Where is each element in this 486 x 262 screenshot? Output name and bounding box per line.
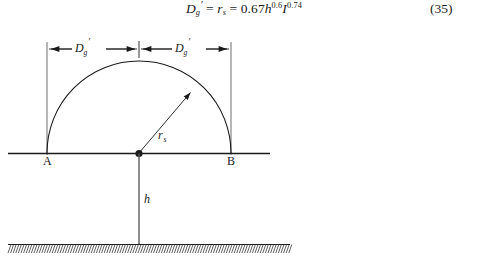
dimension-left-label: D: [74, 41, 84, 55]
dimension-right: D g ′: [141, 37, 229, 58]
equation-mid-subscript: s: [223, 8, 226, 17]
point-a-label: A: [43, 154, 52, 168]
equation-variable-h: h: [265, 1, 272, 16]
equation-equals-1: =: [206, 1, 214, 16]
radius-label: r: [158, 128, 163, 142]
equation-lhs-symbol: D: [186, 1, 196, 16]
dimension-right-label-subscript: g: [184, 48, 188, 57]
equation-expression: Dg′ = rs = 0.67h0.6I0.74: [186, 1, 302, 17]
ground-hatching: [8, 245, 292, 254]
equation-coefficient: 0.67: [241, 1, 265, 16]
height-label: h: [144, 192, 150, 206]
dimension-right-label: D: [174, 41, 184, 55]
dimension-extension-lines: [47, 42, 231, 155]
equation-equals-2: =: [230, 1, 238, 16]
equation-number: (35): [430, 1, 453, 17]
point-b-label: B: [227, 154, 235, 168]
radius-label-subscript: s: [164, 135, 167, 144]
dimension-left-label-subscript: g: [84, 48, 88, 57]
point-b: B: [227, 154, 235, 168]
figure-page: Dg′ = rs = 0.67h0.6I0.74 (35): [0, 0, 486, 262]
dimension-left: D g ′: [49, 37, 137, 58]
equation-lhs-prime: ′: [200, 0, 202, 10]
diagram-figure: D g ′ D g ′ r s: [0, 26, 486, 262]
equation-exponent-h: 0.6: [272, 1, 283, 10]
equation-exponent-i: 0.74: [287, 1, 302, 10]
dome-arc: [47, 61, 231, 153]
equation-row: Dg′ = rs = 0.67h0.6I0.74 (35): [0, 0, 486, 26]
point-a: A: [43, 154, 52, 168]
